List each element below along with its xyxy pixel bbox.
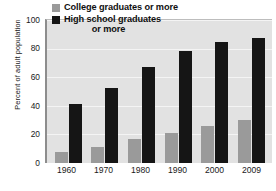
bar-highschool-1970 [105,88,118,163]
y-tick-0: 0 [16,159,40,167]
bar-group-2000 [201,20,228,163]
legend-label-highschool: High school graduates [64,14,161,24]
bar-group-1960 [55,20,82,163]
legend-entry-college: College graduates or more [52,2,224,13]
bar-college-1970 [91,147,104,163]
y-tick-20: 20 [16,130,40,138]
legend-label-highschool-wrapper: High school graduates or more [64,14,161,35]
bar-highschool-1980 [142,67,155,164]
x-tick-2009: 2009 [238,165,265,175]
x-tick-2000: 2000 [201,165,228,175]
bar-group-2009 [238,20,265,163]
bar-chart: Percent of adult population 100 80 60 40… [0,0,276,191]
bar-college-2000 [201,126,214,163]
y-tick-80: 80 [16,44,40,52]
x-tick-1960: 1960 [53,165,80,175]
bar-college-1980 [128,139,141,164]
legend: College graduates or more High school gr… [52,2,224,36]
bar-group-1970 [91,20,118,163]
bar-highschool-1960 [69,104,82,163]
bar-group-1980 [128,20,155,163]
plot-inner [47,20,272,163]
x-tick-1970: 1970 [90,165,117,175]
y-tick-40: 40 [16,102,40,110]
y-axis-tick-labels: 100 80 60 40 20 0 [14,0,40,191]
legend-swatch-college-icon [52,4,60,12]
legend-label-highschool-line2: or more [64,24,161,35]
x-tick-1990: 1990 [164,165,191,175]
legend-entry-highschool: High school graduates or more [52,14,224,35]
bar-groups [47,20,272,163]
y-tick-60: 60 [16,73,40,81]
legend-swatch-highschool-icon [52,16,60,24]
bar-group-1990 [165,20,192,163]
bar-highschool-2000 [215,42,228,163]
bar-college-1960 [55,152,68,163]
bar-college-1990 [165,133,178,163]
bar-college-2009 [238,120,251,163]
x-axis-tick-labels: 1960 1970 1980 1990 2000 2009 [45,165,272,175]
x-tick-1980: 1980 [127,165,154,175]
y-tick-100: 100 [16,16,40,24]
plot-area [45,19,272,163]
legend-label-college: College graduates or more [64,2,178,13]
bar-highschool-1990 [179,51,192,163]
bar-highschool-2009 [252,38,265,163]
